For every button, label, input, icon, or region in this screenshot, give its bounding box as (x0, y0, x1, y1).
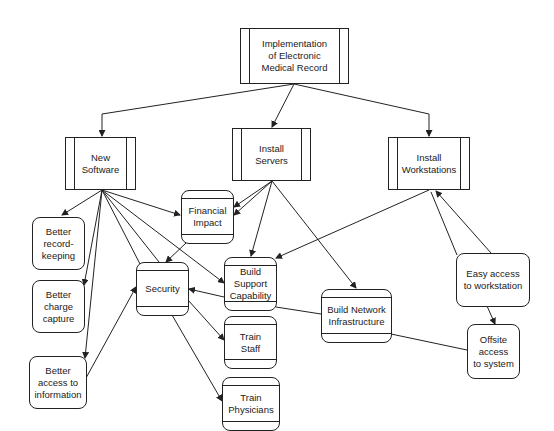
node-new-software: New Software (65, 137, 136, 190)
node-label: Financial Impact (188, 205, 226, 229)
node-label: Train Physicians (228, 392, 273, 416)
edge-new-software-better-charge-capture (84, 190, 102, 285)
edge-new-software-better-recordkeeping (62, 190, 102, 215)
node-security: Security (136, 262, 189, 316)
edge-security-train-physicians (172, 315, 222, 401)
edge-easy-access-install-workstations-a (431, 192, 457, 255)
edge-new-software-security-b (102, 190, 159, 262)
edge-install-servers-build-support (251, 181, 272, 256)
edge-emr-install-servers (272, 84, 294, 127)
node-easy-access: Easy access to workstation (456, 253, 530, 307)
node-label: Install Servers (255, 143, 288, 167)
edge-new-software-better-access-info (85, 190, 102, 358)
node-build-support: Build Support Capability (224, 257, 277, 311)
node-label: Better access to information (35, 365, 82, 401)
edge-easy-access-install-workstations-b (436, 191, 491, 253)
node-better-recordkeeping: Better record- keeping (32, 217, 85, 270)
edge-better-access-info-security (86, 287, 136, 378)
node-label: Security (145, 283, 179, 295)
node-label: Build Support Capability (230, 266, 272, 302)
edge-offsite-build-network (391, 334, 467, 350)
node-build-network: Build Network Infrastructure (321, 289, 392, 343)
node-train-physicians: Train Physicians (222, 377, 280, 431)
edge-install-servers-financial-impact-b (234, 181, 272, 215)
edge-security-train-staff (188, 300, 224, 340)
node-label: Better record- keeping (42, 226, 75, 262)
node-emr: Implementation of Electronic Medical Rec… (240, 28, 349, 84)
edge-install-servers-build-network (272, 181, 356, 288)
edge-easy-access-offsite (487, 306, 495, 324)
node-label: New Software (82, 152, 120, 176)
edge-new-software-financial-impact (102, 190, 180, 215)
node-install-workstations: Install Workstations (388, 137, 470, 190)
edge-build-network-build-support (276, 307, 321, 314)
node-label: Easy access to workstation (464, 268, 523, 292)
edge-new-software-security-a (102, 190, 140, 264)
node-train-staff: Train Staff (224, 316, 277, 369)
edge-install-workstations-build-support (276, 190, 429, 258)
node-label: Implementation of Electronic Medical Rec… (262, 38, 328, 74)
node-offsite-access: Offsite access to system (467, 324, 520, 379)
edge-emr-install-workstations (294, 84, 429, 136)
edge-build-support-security (189, 289, 224, 297)
node-install-servers: Install Servers (232, 128, 311, 181)
node-label: Train Staff (240, 331, 261, 355)
node-financial-impact: Financial Impact (181, 190, 234, 244)
node-label: Offsite access to system (473, 334, 514, 370)
node-better-charge-capture: Better charge capture (32, 280, 85, 333)
node-label: Build Network Infrastructure (327, 304, 386, 328)
node-better-access-info: Better access to information (29, 356, 87, 409)
node-label: Install Workstations (402, 152, 457, 176)
node-label: Better charge capture (43, 289, 75, 325)
